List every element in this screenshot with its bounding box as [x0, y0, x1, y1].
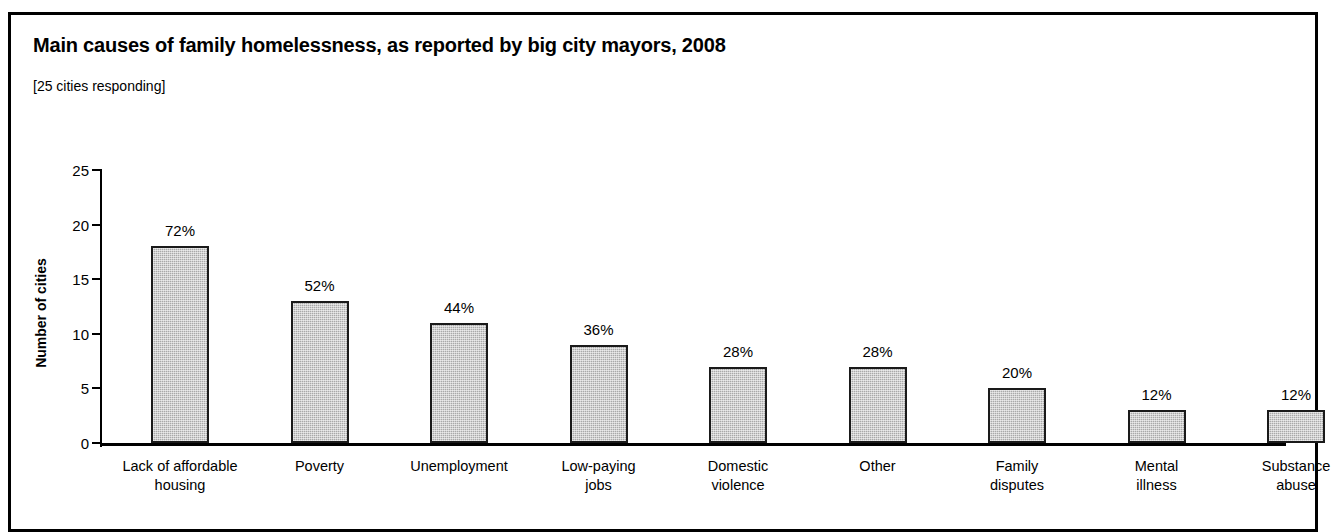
bar-value-label: 52% — [270, 278, 370, 293]
bar-value-label: 44% — [409, 300, 509, 315]
y-axis-tick-label: 25 — [41, 163, 89, 178]
y-axis-tick — [92, 278, 102, 280]
y-axis-tick-label: 15 — [41, 272, 89, 287]
bar[interactable] — [988, 388, 1046, 443]
y-axis-tick-label: 20 — [41, 217, 89, 232]
bar[interactable] — [709, 367, 767, 443]
bar-value-label: 72% — [130, 223, 230, 238]
x-axis-category-label: Other — [803, 457, 953, 476]
x-axis-line — [100, 443, 1286, 446]
x-axis-category-label: Mental illness — [1082, 457, 1232, 495]
x-axis-category-label: Substance abuse — [1221, 457, 1335, 495]
bar-value-label: 12% — [1107, 387, 1207, 402]
bar[interactable] — [291, 301, 349, 443]
bar-value-label: 28% — [688, 344, 788, 359]
y-axis-tick — [92, 224, 102, 226]
x-axis-category-label: Low-paying jobs — [524, 457, 674, 495]
bar-value-label: 12% — [1246, 387, 1335, 402]
y-axis-tick-label: 5 — [41, 381, 89, 396]
y-axis-tick-labels: 0510152025 — [37, 15, 89, 529]
plot-area: Number of cities 0510152025 72%52%44%36%… — [11, 15, 1315, 529]
figure-frame: Main causes of family homelessness, as r… — [8, 12, 1318, 532]
y-axis-tick-label: 10 — [41, 326, 89, 341]
bar[interactable] — [430, 323, 488, 443]
bar[interactable] — [1267, 410, 1325, 443]
bar-value-label: 36% — [549, 322, 649, 337]
bar[interactable] — [151, 246, 209, 443]
bar[interactable] — [1128, 410, 1186, 443]
y-axis-tick — [92, 387, 102, 389]
x-axis-category-label: Lack of affordable housing — [105, 457, 255, 495]
bar-value-label: 20% — [967, 365, 1067, 380]
bar-value-label: 28% — [828, 344, 928, 359]
x-axis-category-label: Domestic violence — [663, 457, 813, 495]
y-axis-tick-label: 0 — [41, 436, 89, 451]
y-axis-tick — [92, 333, 102, 335]
bar[interactable] — [570, 345, 628, 443]
x-axis-category-label: Poverty — [245, 457, 395, 476]
x-axis-category-label: Family disputes — [942, 457, 1092, 495]
y-axis-line — [100, 170, 102, 447]
bar[interactable] — [849, 367, 907, 443]
y-axis-tick — [92, 442, 102, 444]
x-axis-category-label: Unemployment — [384, 457, 534, 476]
y-axis-tick — [92, 169, 102, 171]
